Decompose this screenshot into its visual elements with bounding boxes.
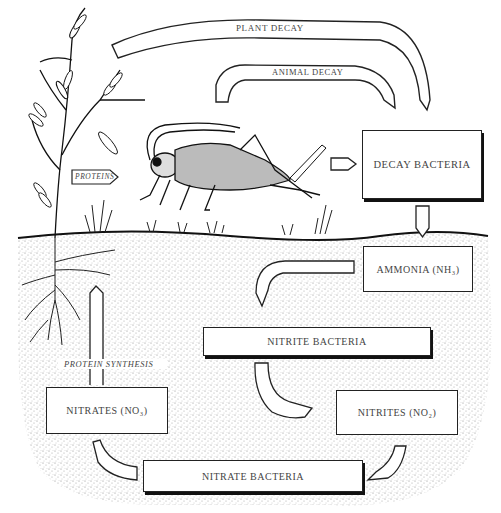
ammonia-box: AMMONIA (NH₃) xyxy=(363,246,473,292)
proteins-label: PROTEINS xyxy=(75,172,114,181)
protein-synthesis-arrow xyxy=(90,286,103,385)
decay-bacteria-box: DECAY BACTERIA xyxy=(362,130,482,199)
ammonia-label: AMMONIA (NH₃) xyxy=(376,264,459,275)
plant-decay-label: PLANT DECAY xyxy=(236,23,304,33)
protein-synthesis-label: PROTEIN SYNTHESIS xyxy=(58,359,167,369)
nitrates-box: NITRATES (NO₃) xyxy=(46,387,168,434)
nitrogen-cycle-diagram: PLANT DECAY ANIMAL DECAY PROTEINS PROTEI… xyxy=(0,0,501,513)
nitrate-bacteria-label: NITRATE BACTERIA xyxy=(202,471,304,482)
nitrite-bacteria-label: NITRITE BACTERIA xyxy=(267,336,366,347)
to-decay-bacteria-arrow xyxy=(331,158,356,170)
nitrites-box: NITRITES (NO₂) xyxy=(336,390,458,435)
cricket-illustration xyxy=(140,123,326,210)
nitrate-bacteria-box: NITRATE BACTERIA xyxy=(143,460,363,492)
nitrates-label: NITRATES (NO₃) xyxy=(66,405,147,416)
grass-tufts xyxy=(85,200,332,235)
nitrites-label: NITRITES (NO₂) xyxy=(358,407,437,418)
animal-decay-label: ANIMAL DECAY xyxy=(272,67,344,77)
nitrite-bacteria-box: NITRITE BACTERIA xyxy=(203,327,431,356)
decay-bacteria-label: DECAY BACTERIA xyxy=(374,159,471,170)
